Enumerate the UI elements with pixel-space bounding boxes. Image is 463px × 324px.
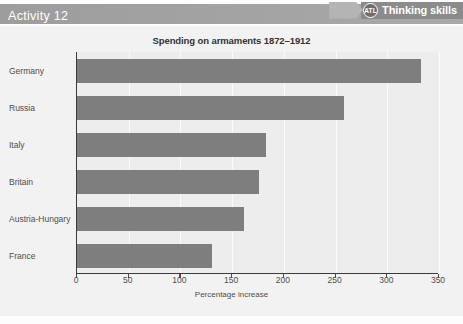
bar-row: [77, 126, 439, 163]
y-axis-label: Italy: [9, 140, 129, 150]
chart-title: Spending on armaments 1872–1912: [0, 35, 463, 46]
x-tick-label: 200: [263, 275, 303, 285]
bar-row: [77, 200, 439, 237]
x-tick-label: 0: [56, 275, 96, 285]
badge-body: ATL Thinking skills: [361, 2, 463, 19]
bar-row: [77, 89, 439, 126]
x-tick-label: 300: [366, 275, 406, 285]
gridline: [439, 52, 440, 273]
y-axis-label: Austria-Hungary: [9, 214, 129, 224]
y-axis-label: Russia: [9, 103, 129, 113]
activity-title: Activity 12: [8, 9, 68, 23]
atl-circle-icon: ATL: [363, 3, 378, 18]
badge-arrow-shape: [329, 2, 363, 19]
bar-row: [77, 52, 439, 89]
x-tick-label: 350: [418, 275, 458, 285]
x-tick-label: 50: [108, 275, 148, 285]
bar-row: [77, 163, 439, 200]
y-axis-label: Germany: [9, 66, 129, 76]
badge-label: Thinking skills: [382, 4, 457, 16]
bar-series: [77, 52, 438, 273]
x-tick-label: 150: [211, 275, 251, 285]
x-tick-label: 250: [315, 275, 355, 285]
page-root: Activity 12 ATL Thinking skills Spending…: [0, 0, 463, 324]
x-tick-label: 100: [159, 275, 199, 285]
chart-card: Spending on armaments 1872–1912 GermanyR…: [0, 26, 463, 316]
x-axis-label: Percentage increase: [0, 290, 463, 299]
y-axis-label: France: [9, 251, 129, 261]
bar-row: [77, 237, 439, 274]
atl-thinking-skills-badge: ATL Thinking skills: [329, 1, 463, 19]
y-axis-label: Britain: [9, 177, 129, 187]
plot-area: [76, 52, 438, 274]
